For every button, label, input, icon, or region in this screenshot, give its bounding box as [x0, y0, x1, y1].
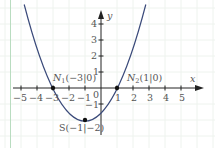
point-n2	[115, 86, 119, 90]
y-axis-label: y	[106, 10, 113, 21]
svg-text:4: 4	[91, 18, 97, 29]
svg-text:−3: −3	[45, 92, 59, 103]
grid	[0, 0, 215, 148]
svg-text:3: 3	[147, 92, 153, 103]
n2-label: N2(1|0)	[126, 72, 162, 85]
svg-text:−4: −4	[29, 92, 43, 103]
svg-text:5: 5	[179, 92, 185, 103]
svg-text:−5: −5	[13, 92, 27, 103]
s-label: S(−1|−2)	[59, 122, 104, 134]
x-axis-label: x	[190, 73, 196, 84]
svg-text:2: 2	[91, 50, 97, 61]
svg-text:1: 1	[115, 92, 121, 103]
svg-text:−2: −2	[61, 92, 75, 103]
svg-text:4: 4	[163, 92, 169, 103]
svg-text:2: 2	[131, 92, 137, 103]
x-axis	[13, 85, 204, 91]
n1-label: N1(−3|0)	[52, 72, 96, 85]
svg-text:−1: −1	[85, 99, 99, 110]
point-n1	[51, 86, 55, 90]
svg-text:3: 3	[91, 34, 97, 45]
parabola-chart: x y −5 −4 −3 −2 −1 1 2 3 4 5 0 4 3 2 1 −…	[0, 0, 215, 148]
